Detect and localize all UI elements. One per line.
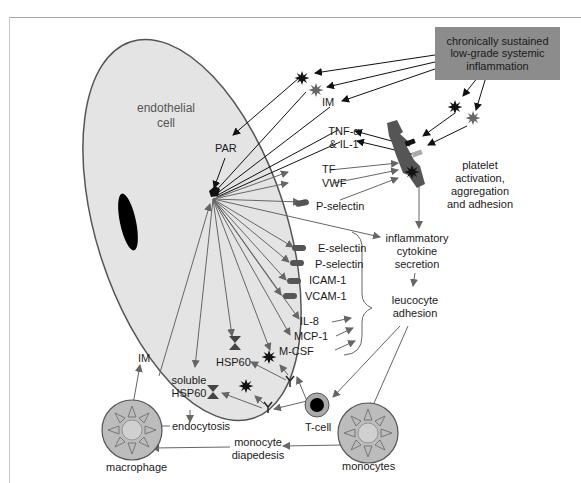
source-line-1: chronically sustained (446, 35, 548, 48)
source-line-2: low-grade systemic (446, 47, 548, 60)
icam-label: ICAM-1 (309, 274, 346, 287)
tnf-il1-label: TNF-α & IL-1 (328, 125, 360, 151)
mcp1-label: MCP-1 (294, 330, 328, 343)
burst-icon (309, 83, 324, 97)
e-selectin-label: E-selectin (318, 242, 366, 255)
macrophage-label: macrophage (106, 461, 167, 474)
burst-icon (295, 71, 310, 85)
soluble-hsp60-label: soluble HSP60 (170, 374, 208, 400)
mcsf-label: M-CSF (279, 345, 314, 358)
monocytes-label: monocytes (342, 460, 395, 473)
endothelial-cell-label: endothelial cell (136, 101, 196, 131)
inflammation-source-box: chronically sustained low-grade systemic… (435, 27, 560, 80)
monocyte-diapedesis-label: monocyte diapedesis (230, 436, 286, 462)
im-left-label: IM (138, 352, 150, 365)
par-label: PAR (215, 142, 237, 155)
burst-icon (466, 111, 481, 125)
cytokine-secretion-label: inflammatory cytokine secretion (382, 232, 452, 271)
endocytosis-label: endocytosis (172, 420, 230, 433)
source-line-3: inflammation (446, 60, 548, 73)
platelet-process-label: platelet activation, aggregation and adh… (445, 159, 515, 211)
burst-icon (448, 100, 463, 114)
p-selectin-lower-label: P-selectin (315, 258, 363, 271)
monocyte-icon (338, 403, 398, 463)
il8-label: IL-8 (300, 315, 319, 328)
tcell-label: T-cell (305, 421, 331, 434)
leucocyte-adhesion-label: leucocyte adhesion (385, 294, 445, 320)
vcam-label: VCAM-1 (305, 290, 347, 303)
im-top-label: IM (322, 96, 334, 109)
tcell-icon (305, 393, 329, 417)
tf-label: TF (322, 163, 335, 176)
macrophage-icon (102, 400, 162, 460)
p-selectin-upper-label: P-selectin (316, 200, 364, 213)
vwf-label: VWF (322, 177, 346, 190)
platelet-icon (387, 120, 425, 188)
hsp60-label: HSP60 (216, 356, 251, 369)
